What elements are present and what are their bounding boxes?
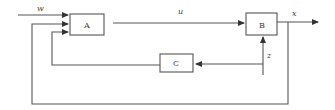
- block-a-label: A: [83, 21, 90, 30]
- signal-w: w: [18, 4, 68, 15]
- signal-z: z: [263, 37, 272, 75]
- label-x: x: [292, 9, 297, 18]
- label-u: u: [178, 7, 183, 16]
- signal-x: x: [277, 9, 318, 22]
- block-b: B: [246, 13, 277, 35]
- block-c: C: [160, 54, 193, 72]
- block-c-label: C: [173, 59, 179, 68]
- label-z: z: [266, 51, 272, 60]
- label-w: w: [37, 4, 44, 13]
- block-a: A: [70, 14, 104, 35]
- block-b-label: B: [259, 21, 265, 30]
- inner-feedback-path: [52, 32, 160, 65]
- signal-u: u: [113, 7, 244, 23]
- block-diagram: w A u B x z C: [0, 0, 335, 110]
